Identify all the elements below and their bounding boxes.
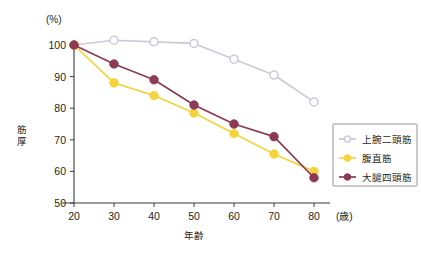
data-point (110, 60, 119, 69)
legend: 上腕二頭筋腹直筋大腿四頭筋 (333, 124, 417, 186)
y-ticklabel-80: 80 (54, 102, 66, 114)
x-unit-label: (歳) (336, 211, 353, 222)
data-point (270, 71, 278, 79)
x-ticklabel-20: 20 (68, 210, 80, 222)
x-axis-title: 年齢 (184, 230, 204, 241)
legend-swatch-marker (345, 136, 351, 142)
data-point (310, 98, 318, 106)
data-point (230, 129, 239, 138)
x-ticklabel-30: 30 (108, 210, 120, 222)
data-point (110, 36, 118, 44)
data-point (270, 150, 279, 159)
series-line-1 (74, 40, 314, 102)
legend-swatch-marker (344, 155, 351, 162)
y-axis-title: 筋 厚 (17, 124, 27, 147)
data-point (190, 39, 198, 47)
x-axis-ticks: 20 30 40 50 60 70 80 (68, 203, 320, 222)
data-point (310, 173, 319, 182)
data-point (190, 109, 199, 118)
y-ticklabel-90: 90 (54, 71, 66, 83)
legend-swatch-marker (344, 174, 351, 181)
data-point (230, 55, 238, 63)
y-ticklabel-70: 70 (54, 134, 66, 146)
muscle-thickness-line-chart: (%) 筋 厚 50 60 70 80 90 100 20 (0, 0, 421, 254)
y-axis-ticks: 50 60 70 80 90 100 (48, 39, 74, 209)
y-ticklabel-50: 50 (54, 197, 66, 209)
data-point (230, 120, 239, 129)
series-layer (70, 36, 319, 182)
y-axis-title-char-2: 厚 (17, 136, 27, 147)
y-ticklabel-100: 100 (48, 39, 66, 51)
data-point (190, 101, 199, 110)
chart-svg: (%) 筋 厚 50 60 70 80 90 100 20 (0, 0, 421, 254)
x-ticklabel-40: 40 (148, 210, 160, 222)
data-point (270, 132, 279, 141)
x-ticklabel-70: 70 (268, 210, 280, 222)
y-ticklabel-60: 60 (54, 165, 66, 177)
x-ticklabel-50: 50 (188, 210, 200, 222)
legend-label: 上腕二頭筋 (362, 134, 412, 145)
y-axis-title-char-1: 筋 (17, 124, 27, 135)
y-unit-label: (%) (46, 14, 62, 25)
data-point (150, 38, 158, 46)
data-point (70, 41, 79, 50)
series-1 (70, 36, 318, 106)
x-ticklabel-60: 60 (228, 210, 240, 222)
data-point (110, 79, 119, 88)
legend-label: 腹直筋 (362, 153, 392, 164)
legend-label: 大腿四頭筋 (362, 172, 412, 183)
x-ticklabel-80: 80 (308, 210, 320, 222)
data-point (150, 75, 159, 84)
data-point (150, 91, 159, 100)
